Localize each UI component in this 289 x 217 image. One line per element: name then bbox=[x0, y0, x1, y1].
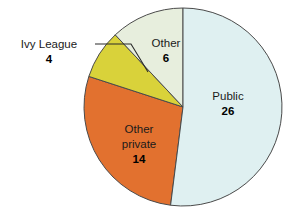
pie-label-public: Public bbox=[212, 90, 244, 102]
pie-value-other-private: 14 bbox=[133, 153, 146, 165]
pie-chart: Public 26 Other 6 Ivy League 4 Other pri… bbox=[0, 0, 289, 217]
pie-label-ivy-league: Ivy League bbox=[21, 38, 77, 50]
pie-chart-svg: Public 26 Other 6 Ivy League 4 Other pri… bbox=[0, 0, 289, 217]
pie-value-public: 26 bbox=[222, 105, 235, 117]
pie-value-ivy-league: 4 bbox=[46, 53, 53, 65]
pie-label-other-private-line2: private bbox=[122, 138, 157, 150]
pie-value-other: 6 bbox=[163, 52, 169, 64]
pie-label-other: Other bbox=[152, 37, 181, 49]
pie-label-other-private-line1: Other bbox=[125, 123, 154, 135]
